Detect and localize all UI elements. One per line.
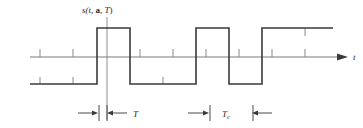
dimension-Tc-subscript: c [227,113,230,120]
time-axis-arrowhead [337,54,348,61]
waveform-svg-canvas: s(t, a, T) t T Tc [0,0,363,128]
dimension-T-right-arrowhead [107,111,113,116]
dimension-T-label: T [133,109,139,119]
time-axis-label: t [353,52,356,62]
axis-tick-group [40,49,305,57]
dimension-Tc-left-arrowhead [203,111,209,116]
dimension-Tc-label: Tc [222,109,230,120]
square-wave-signal-path [30,28,333,84]
dimension-Tc-group [188,105,272,121]
signal-label: s(t, a, T) [82,5,113,15]
signal-label-suffix: ) [110,5,113,15]
dimension-T-left-arrowhead [92,111,98,116]
dimension-T-group [78,105,127,121]
signal-waveform-figure: s(t, a, T) t T Tc [0,0,363,128]
low-level-tick-group [40,77,163,84]
